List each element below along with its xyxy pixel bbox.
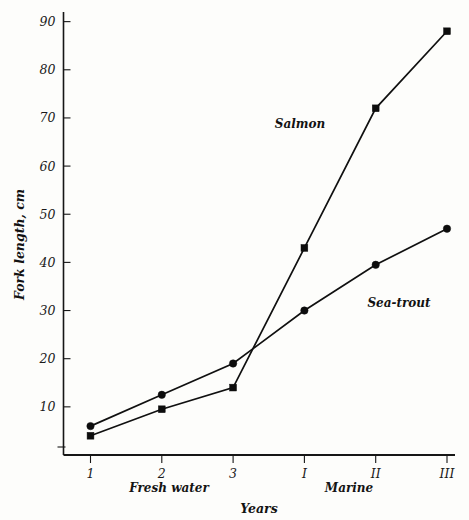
series-lines-group xyxy=(91,31,448,435)
y-tick-label: 80 xyxy=(40,62,56,77)
data-point-sea-trout xyxy=(87,422,94,429)
data-point-sea-trout xyxy=(443,225,450,232)
x-group-label-fresh-water: Fresh water xyxy=(128,481,210,495)
y-tick-label: 90 xyxy=(40,14,56,29)
x-group-label-marine: Marine xyxy=(324,481,374,495)
series-annotation-salmon: Salmon xyxy=(275,117,325,131)
series-line-sea-trout xyxy=(91,229,448,426)
y-tick-label: 50 xyxy=(40,207,56,222)
figure-container: 102030405060708090 123IIIIII Fork length… xyxy=(0,0,469,520)
data-point-sea-trout xyxy=(372,261,379,268)
x-tick-label: III xyxy=(439,466,456,481)
series-line-salmon xyxy=(91,31,448,435)
x-tick-label: 1 xyxy=(87,466,95,481)
data-point-salmon xyxy=(230,384,237,391)
y-tick-label: 30 xyxy=(40,303,56,318)
x-tick-label: 2 xyxy=(157,466,166,481)
data-point-salmon xyxy=(372,105,379,112)
y-tick-label: 40 xyxy=(39,255,56,270)
x-axis-title: Years xyxy=(240,501,278,516)
y-tick-label: 70 xyxy=(40,110,56,125)
y-axis-title: Fork length, cm xyxy=(12,189,27,301)
data-point-salmon xyxy=(87,432,94,439)
data-point-sea-trout xyxy=(158,391,165,398)
y-tick-label: 20 xyxy=(39,351,56,366)
data-point-salmon xyxy=(444,28,451,35)
data-point-sea-trout xyxy=(301,307,308,314)
x-tick-label: I xyxy=(301,466,308,481)
x-axis-ticks: 123IIIIII xyxy=(87,455,456,481)
y-tick-label: 10 xyxy=(40,399,56,414)
x-tick-label: II xyxy=(370,466,382,481)
data-point-salmon xyxy=(301,245,308,252)
data-point-sea-trout xyxy=(229,360,236,367)
line-chart: 102030405060708090 123IIIIII Fork length… xyxy=(0,0,469,520)
y-axis-ticks: 102030405060708090 xyxy=(39,14,71,447)
y-tick-label: 60 xyxy=(40,159,56,174)
series-markers-group xyxy=(87,28,451,439)
series-annotation-sea-trout: Sea-trout xyxy=(367,296,431,310)
data-point-salmon xyxy=(158,406,165,413)
x-tick-label: 3 xyxy=(229,466,237,481)
